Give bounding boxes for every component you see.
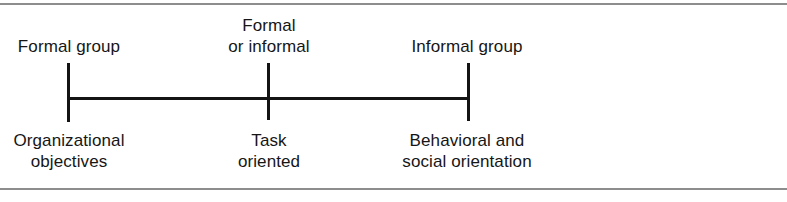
- label-formal-or-informal-line-1: Formal: [228, 15, 309, 36]
- axis-tick-right: [467, 63, 470, 121]
- label-formal-group-line-1: Formal group: [18, 36, 120, 57]
- figure-top-rule: [0, 3, 787, 5]
- label-formal-or-informal: Formal or informal: [228, 15, 309, 57]
- label-task-oriented: Task oriented: [238, 130, 300, 172]
- label-behavioral-social-orientation-line-2: social orientation: [402, 151, 531, 172]
- axis-tick-left: [67, 63, 70, 122]
- label-behavioral-social-orientation: Behavioral and social orientation: [402, 130, 531, 172]
- label-task-oriented-line-1: Task: [238, 130, 300, 151]
- label-informal-group-line-1: Informal group: [411, 36, 522, 57]
- label-organizational-objectives-line-1: Organizational: [13, 130, 124, 151]
- label-informal-group: Informal group: [411, 36, 522, 57]
- label-organizational-objectives-line-2: objectives: [13, 151, 124, 172]
- label-task-oriented-line-2: oriented: [238, 151, 300, 172]
- continuum-figure: Formal group Formal or informal Informal…: [0, 0, 787, 202]
- label-formal-or-informal-line-2: or informal: [228, 36, 309, 57]
- label-organizational-objectives: Organizational objectives: [13, 130, 124, 172]
- label-behavioral-social-orientation-line-1: Behavioral and: [402, 130, 531, 151]
- label-formal-group: Formal group: [18, 36, 120, 57]
- figure-bottom-rule: [0, 188, 787, 190]
- axis-tick-middle: [267, 63, 270, 120]
